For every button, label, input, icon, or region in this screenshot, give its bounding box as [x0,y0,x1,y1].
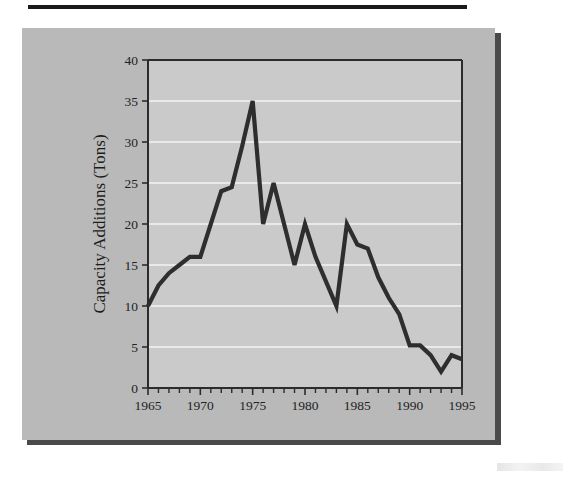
x-axis-tick-labels: 1965197019751980198519901995 [135,398,476,413]
y-tick-label: 0 [131,381,138,396]
x-tick-label: 1965 [135,398,162,413]
line-chart: 0510152025303540 19651970197519801985199… [0,0,577,483]
x-tick-label: 1970 [187,398,214,413]
y-tick-label: 40 [125,53,139,68]
x-tick-label: 1995 [449,398,476,413]
x-tick-label: 1980 [292,398,319,413]
x-tick-label: 1985 [344,398,371,413]
x-axis-tick-marks [148,388,462,395]
y-tick-label: 30 [125,135,139,150]
y-tick-label: 25 [125,176,139,191]
x-tick-label: 1975 [239,398,266,413]
y-axis-tick-labels: 0510152025303540 [125,53,139,396]
y-tick-label: 15 [125,258,139,273]
y-tick-label: 35 [125,94,139,109]
y-tick-label: 20 [125,217,139,232]
y-tick-label: 10 [125,299,139,314]
x-tick-label: 1990 [396,398,423,413]
corner-artifact [497,463,563,471]
y-axis-title: Capacity Additions (Tons) [90,134,109,313]
y-tick-label: 5 [131,340,138,355]
